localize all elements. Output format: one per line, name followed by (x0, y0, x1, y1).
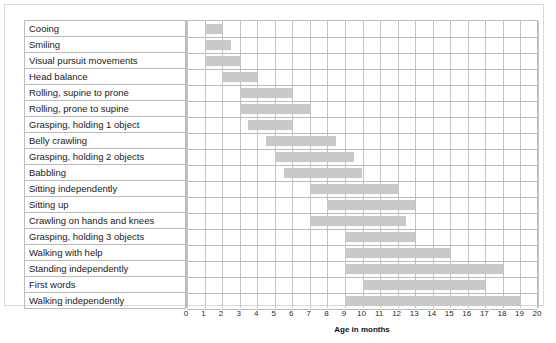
chart-row (187, 197, 537, 213)
milestone-label-column: CooingSmilingVisual pursuit movementsHea… (24, 20, 186, 309)
milestone-label: Grasping, holding 1 object (25, 117, 185, 133)
chart-row (187, 293, 537, 309)
x-tick-label: 4 (254, 309, 258, 318)
milestone-bar (205, 56, 240, 66)
milestone-label: Head balance (25, 69, 185, 85)
milestone-bar (222, 72, 257, 82)
developmental-milestones-gantt-chart: CooingSmilingVisual pursuit movementsHea… (0, 0, 556, 343)
milestone-bar (345, 232, 415, 242)
x-tick-label: 19 (515, 309, 524, 318)
plot-area (186, 20, 538, 308)
milestone-bar (266, 136, 336, 146)
x-tick-label: 1 (201, 309, 205, 318)
milestone-bar (275, 152, 354, 162)
milestone-label: Smiling (25, 37, 185, 53)
milestone-bar (327, 200, 415, 210)
milestone-label: Visual pursuit movements (25, 53, 185, 69)
chart-row (187, 261, 537, 277)
milestone-label: Sitting independently (25, 181, 185, 197)
milestone-label: Rolling, prone to supine (25, 101, 185, 117)
milestone-bar (240, 104, 310, 114)
chart-row (187, 21, 537, 37)
chart-row (187, 133, 537, 149)
x-tick-label: 10 (357, 309, 366, 318)
x-tick-label: 0 (184, 309, 188, 318)
x-tick-label: 8 (324, 309, 328, 318)
milestone-label: Crawling on hands and knees (25, 213, 185, 229)
chart-row (187, 149, 537, 165)
chart-row (187, 101, 537, 117)
chart-row (187, 53, 537, 69)
x-tick-label: 18 (497, 309, 506, 318)
x-tick-label: 16 (462, 309, 471, 318)
milestone-label: Rolling, supine to prone (25, 85, 185, 101)
x-tick-label: 12 (392, 309, 401, 318)
x-axis-tick-labels: 01234567891011121314151617181920 (186, 309, 538, 321)
milestone-label: Grasping, holding 3 objects (25, 229, 185, 245)
x-tick-label: 14 (427, 309, 436, 318)
chart-row (187, 117, 537, 133)
milestone-bar (345, 296, 521, 306)
chart-row (187, 229, 537, 245)
x-tick-label: 15 (445, 309, 454, 318)
chart-row (187, 181, 537, 197)
x-tick-label: 9 (342, 309, 346, 318)
milestone-bar (248, 120, 292, 130)
milestone-label: Standing independently (25, 261, 185, 277)
milestone-bar (345, 264, 503, 274)
chart-row (187, 277, 537, 293)
milestone-bar (240, 88, 293, 98)
milestone-label: Grasping, holding 2 objects (25, 149, 185, 165)
x-tick-label: 3 (236, 309, 240, 318)
chart-row (187, 213, 537, 229)
x-tick-label: 5 (272, 309, 276, 318)
milestone-bar (284, 168, 363, 178)
x-tick-label: 2 (219, 309, 223, 318)
milestone-bar (205, 24, 223, 34)
milestone-label: Sitting up (25, 197, 185, 213)
chart-row (187, 85, 537, 101)
milestone-bar (205, 40, 231, 50)
x-tick-label: 11 (375, 309, 383, 318)
milestone-label: Belly crawling (25, 133, 185, 149)
x-tick-label: 20 (533, 309, 542, 318)
milestone-label: Cooing (25, 21, 185, 37)
chart-row (187, 69, 537, 85)
milestone-label: Walking with help (25, 245, 185, 261)
milestone-bar (310, 216, 407, 226)
milestone-label: First words (25, 277, 185, 293)
milestone-label: Walking independently (25, 293, 185, 309)
x-tick-label: 13 (410, 309, 419, 318)
x-tick-label: 6 (289, 309, 293, 318)
x-tick-label: 7 (307, 309, 311, 318)
x-tick-label: 17 (480, 309, 489, 318)
milestone-bar (345, 248, 450, 258)
x-axis-title: Age in months (186, 325, 538, 334)
milestone-label: Babbling (25, 165, 185, 181)
milestone-bar (363, 280, 486, 290)
milestone-bar (310, 184, 398, 194)
gridline-vertical (538, 21, 539, 308)
chart-row (187, 165, 537, 181)
chart-row (187, 37, 537, 53)
chart-row (187, 245, 537, 261)
